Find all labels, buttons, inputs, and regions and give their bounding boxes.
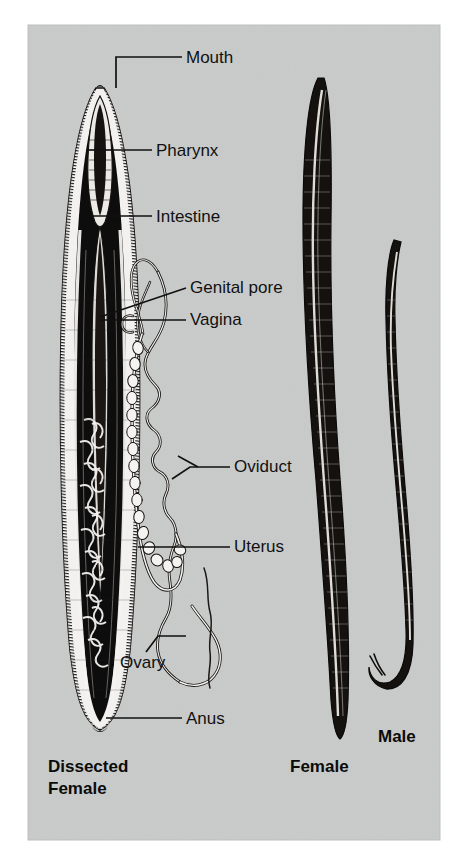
label-vagina: Vagina — [190, 310, 242, 329]
caption-male: Male — [378, 727, 416, 746]
label-ovary: Ovary — [120, 653, 166, 672]
caption-dissected-female-line1: Dissected — [48, 757, 128, 776]
label-intestine: Intestine — [156, 207, 220, 226]
label-oviduct: Oviduct — [234, 457, 292, 476]
anatomy-figure: Mouth Pharynx Intestine Genital pore Vag… — [0, 0, 466, 864]
label-mouth: Mouth — [186, 48, 233, 67]
caption-female: Female — [290, 757, 349, 776]
label-pharynx: Pharynx — [156, 141, 219, 160]
dissected-female-worm — [58, 85, 141, 732]
label-anus: Anus — [186, 709, 225, 728]
label-uterus: Uterus — [234, 537, 284, 556]
label-genital-pore: Genital pore — [190, 278, 283, 297]
caption-dissected-female-line2: Female — [48, 779, 107, 798]
figure-canvas: Mouth Pharynx Intestine Genital pore Vag… — [0, 0, 466, 864]
